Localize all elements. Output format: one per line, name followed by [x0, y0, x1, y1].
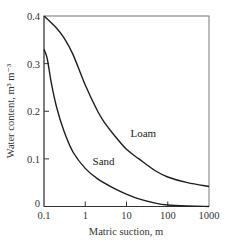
y-tick-label: 0.2 — [27, 106, 40, 117]
y-tick-label: 0 — [35, 198, 40, 209]
y-axis-label: Water content, m³ m⁻³ — [5, 64, 16, 158]
series-line-sand — [44, 49, 209, 206]
series-label-sand: Sand — [93, 155, 116, 167]
x-tick-label: 0.1 — [37, 210, 50, 221]
y-tick-label: 0.4 — [27, 11, 41, 22]
x-axis-label: Matric suction, m — [89, 226, 163, 237]
x-tick-label: 10 — [121, 210, 132, 221]
y-tick-label: 0.3 — [27, 59, 40, 70]
x-tick-label: 100 — [160, 210, 176, 221]
x-tick-label: 1000 — [199, 210, 220, 221]
y-tick-label: 0.1 — [27, 154, 40, 165]
x-ticks: 0.11101001000 — [37, 202, 219, 221]
y-ticks: 00.10.20.30.4 — [27, 11, 49, 209]
water-retention-chart: 0.11101001000 00.10.20.30.4 LoamSand Mat… — [0, 0, 230, 242]
series-line-loam — [44, 16, 209, 187]
series-lines — [44, 16, 209, 207]
x-tick-label: 1 — [83, 210, 88, 221]
series-label-loam: Loam — [131, 127, 157, 139]
